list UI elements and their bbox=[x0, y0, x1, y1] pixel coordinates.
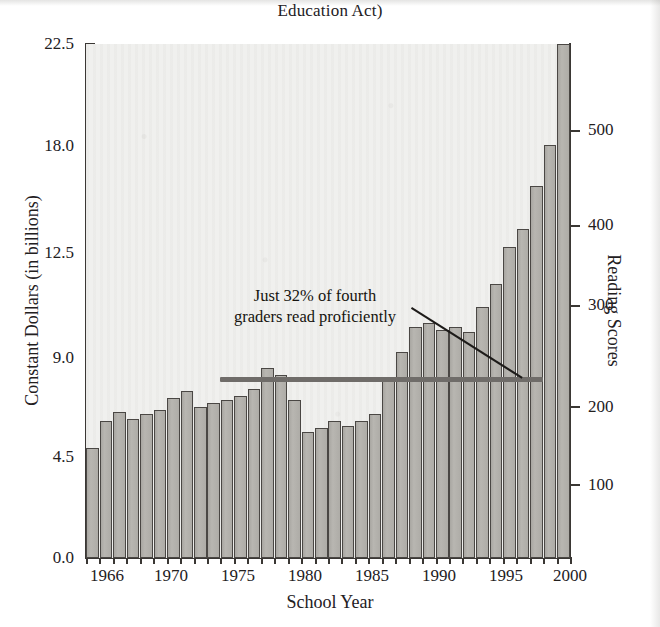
y-axis-tick-label: 0.0 bbox=[0, 548, 74, 568]
x-axis-tick-label: 1985 bbox=[342, 566, 402, 586]
x-axis-tick bbox=[180, 558, 182, 564]
y2-axis-tick bbox=[571, 406, 580, 408]
x-axis-tick bbox=[355, 558, 357, 564]
x-axis-tick-label: 1970 bbox=[141, 566, 201, 586]
y2-axis-tick bbox=[571, 305, 580, 307]
y2-axis-tick-label: 500 bbox=[588, 120, 614, 140]
x-axis-ticks bbox=[86, 558, 570, 564]
bar bbox=[544, 145, 557, 558]
bar bbox=[449, 327, 462, 558]
bar bbox=[503, 247, 516, 558]
x-axis-tick bbox=[557, 558, 559, 564]
bar bbox=[288, 400, 301, 558]
bar bbox=[261, 368, 274, 558]
bar bbox=[530, 186, 543, 558]
bar bbox=[140, 414, 153, 558]
x-axis-tick bbox=[86, 558, 88, 564]
bar bbox=[181, 391, 194, 558]
page-title: Education Act) bbox=[0, 1, 660, 21]
bar bbox=[396, 352, 409, 558]
bar bbox=[517, 229, 530, 558]
annotation-text: Just 32% of fourth graders read proficie… bbox=[180, 285, 450, 327]
chart-canvas: Education Act) 22.5 18.0 12.5 9.0 4.5 0.… bbox=[0, 0, 660, 627]
y-axis-title: Constant Dollars (in billions) bbox=[22, 106, 43, 496]
x-axis-tick bbox=[207, 558, 209, 564]
x-axis-tick bbox=[516, 558, 518, 564]
bar bbox=[234, 396, 247, 558]
x-axis-tick bbox=[126, 558, 128, 564]
x-axis-tick bbox=[113, 558, 115, 564]
x-axis-tick bbox=[153, 558, 155, 564]
x-axis-tick bbox=[543, 558, 545, 564]
x-axis-tick bbox=[328, 558, 330, 564]
bar bbox=[409, 327, 422, 558]
bar bbox=[248, 389, 261, 558]
bar bbox=[86, 448, 99, 558]
x-axis-title: School Year bbox=[0, 592, 660, 613]
bar bbox=[302, 432, 315, 558]
y2-axis-title: Reading Scores bbox=[603, 196, 624, 426]
x-axis-tick-label: 2000 bbox=[540, 566, 600, 586]
bar bbox=[490, 284, 503, 558]
bar bbox=[423, 323, 436, 558]
y-axis-tick-label: 22.5 bbox=[0, 34, 74, 54]
bar bbox=[194, 407, 207, 558]
annotation-line-1: Just 32% of fourth bbox=[180, 285, 450, 306]
x-axis-tick-label: 1995 bbox=[476, 566, 536, 586]
y2-axis-tick bbox=[571, 225, 580, 227]
x-axis-tick bbox=[301, 558, 303, 564]
x-axis-tick bbox=[288, 558, 290, 564]
x-axis-tick bbox=[422, 558, 424, 564]
x-axis-tick bbox=[234, 558, 236, 564]
bar bbox=[382, 378, 395, 558]
x-axis-tick bbox=[395, 558, 397, 564]
x-axis-tick bbox=[570, 558, 572, 564]
y2-axis-tick bbox=[571, 484, 580, 486]
bar bbox=[167, 398, 180, 558]
x-axis-tick-label: 1966 bbox=[77, 566, 137, 586]
x-axis-tick bbox=[476, 558, 478, 564]
bar bbox=[113, 412, 126, 558]
bar bbox=[221, 400, 234, 558]
x-axis-tick bbox=[315, 558, 317, 564]
x-axis-tick bbox=[503, 558, 505, 564]
bar bbox=[355, 421, 368, 558]
x-axis-tick bbox=[462, 558, 464, 564]
bar bbox=[557, 44, 570, 558]
bar bbox=[436, 330, 449, 558]
x-axis-tick-label: 1975 bbox=[208, 566, 268, 586]
bar bbox=[328, 421, 341, 558]
x-axis-tick bbox=[368, 558, 370, 564]
bar bbox=[127, 419, 140, 558]
y2-axis-tick bbox=[571, 130, 580, 132]
x-axis-tick bbox=[261, 558, 263, 564]
bar bbox=[342, 426, 355, 558]
y2-axis-tick-label: 100 bbox=[588, 475, 614, 495]
x-axis-tick bbox=[220, 558, 222, 564]
x-axis-tick bbox=[341, 558, 343, 564]
x-axis-tick bbox=[99, 558, 101, 564]
x-axis-tick-label: 1980 bbox=[275, 566, 335, 586]
x-axis-tick bbox=[530, 558, 532, 564]
bar bbox=[100, 421, 113, 558]
bar bbox=[463, 332, 476, 558]
x-axis-tick bbox=[247, 558, 249, 564]
x-axis-tick bbox=[409, 558, 411, 564]
x-axis-tick bbox=[382, 558, 384, 564]
annotation-line-2: graders read proficiently bbox=[180, 306, 450, 327]
reference-line-reading-scores bbox=[220, 377, 543, 382]
bar bbox=[369, 414, 382, 558]
x-axis-tick bbox=[274, 558, 276, 564]
bar bbox=[315, 428, 328, 558]
x-axis-tick-label: 1990 bbox=[409, 566, 469, 586]
bar bbox=[154, 410, 167, 558]
x-axis-tick bbox=[436, 558, 438, 564]
x-axis-tick bbox=[489, 558, 491, 564]
bar bbox=[275, 375, 288, 558]
x-axis-tick bbox=[167, 558, 169, 564]
scan-edge-right bbox=[650, 0, 660, 627]
x-axis-tick bbox=[449, 558, 451, 564]
x-axis-tick bbox=[140, 558, 142, 564]
bar bbox=[207, 403, 220, 558]
bar bbox=[476, 307, 489, 558]
